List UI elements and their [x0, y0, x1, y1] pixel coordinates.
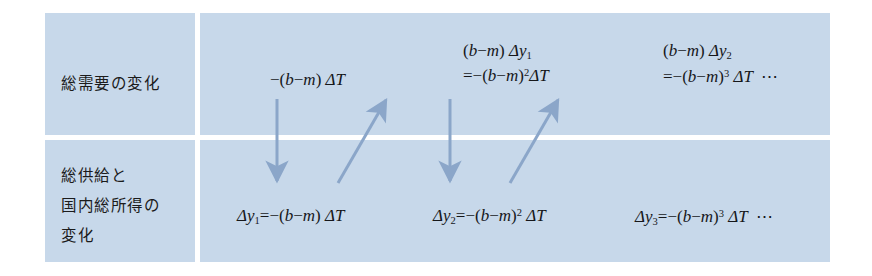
formula-line: Δy3=−(b−m)3 ΔT⋯ — [635, 206, 774, 227]
row-label-line: 変化 — [45, 221, 195, 251]
row-label-aggregate-supply: 総供給と 国内総所得の 変化 — [45, 161, 195, 251]
formula-line-numerator: (b−m) Δy1 — [463, 41, 549, 61]
formula-line: Δy2=−(b−m)2 ΔT — [433, 206, 546, 226]
formula-line-numerator: (b−m) Δy2 — [663, 41, 779, 61]
row-label-line: 総需要の変化 — [45, 71, 195, 93]
ellipsis-bottom: ⋯ — [748, 207, 774, 226]
formula-line: Δy1=−(b−m) ΔT — [237, 206, 344, 226]
formula-as-term-2: Δy2=−(b−m)2 ΔT — [433, 206, 546, 226]
formula-as-term-1: Δy1=−(b−m) ΔT — [237, 206, 344, 226]
flow-table-panel: 総需要の変化 総供給と 国内総所得の 変化 −(b−m) ΔT (b−m) Δy… — [45, 13, 830, 262]
formula-ad-term-2: (b−m) Δy1 =−(b−m)2ΔT — [463, 41, 549, 86]
row-label-line: 国内総所得の — [45, 191, 195, 221]
formula-line-result: =−(b−m)2ΔT — [463, 66, 549, 86]
formula-as-term-3: Δy3=−(b−m)3 ΔT⋯ — [635, 206, 774, 227]
ellipsis-top: ⋯ — [753, 67, 779, 86]
formula-ad-term-1: −(b−m) ΔT — [270, 70, 345, 90]
formula-line: −(b−m) ΔT — [270, 70, 345, 90]
figure-canvas: 総需要の変化 総供給と 国内総所得の 変化 −(b−m) ΔT (b−m) Δy… — [0, 0, 872, 276]
row-label-aggregate-demand: 総需要の変化 — [45, 71, 195, 93]
formula-ad-term-3: (b−m) Δy2 =−(b−m)3 ΔT⋯ — [663, 41, 779, 87]
column-divider — [195, 13, 200, 262]
row-label-line: 総供給と — [45, 161, 195, 191]
formula-line-result: =−(b−m)3 ΔT⋯ — [663, 66, 779, 87]
